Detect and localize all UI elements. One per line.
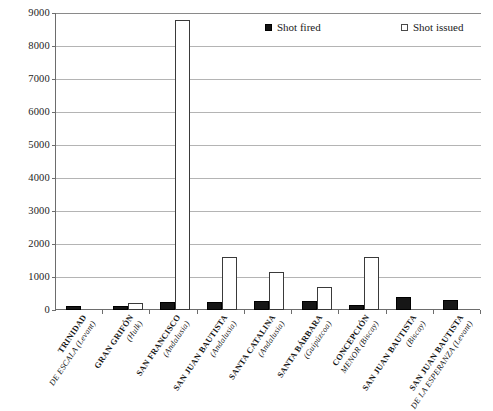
legend: Shot fired Shot issued — [255, 22, 485, 40]
bar-shot-fired — [443, 300, 458, 310]
x-axis-labels: TRINIDADDE ESCALA (Levant)GRAN GRIFÓN(Hu… — [0, 311, 493, 409]
y-axis-tick-label: 1000 — [6, 272, 50, 283]
y-axis-tick-label: 9000 — [6, 8, 50, 19]
y-axis-tick-label: 6000 — [6, 107, 50, 118]
bar-shot-fired — [302, 301, 317, 310]
bar-shot-fired — [254, 301, 269, 310]
legend-entry-shot-issued: Shot issued — [401, 22, 463, 33]
bar-group — [386, 13, 433, 310]
legend-swatch-filled-icon — [265, 24, 272, 31]
y-axis-tick-label: 5000 — [6, 140, 50, 151]
bar-shot-fired — [113, 306, 128, 310]
legend-swatch-hollow-icon — [401, 24, 408, 31]
bar-group — [149, 13, 196, 310]
y-axis-tick-label: 3000 — [6, 206, 50, 217]
legend-label-shot-fired: Shot fired — [277, 22, 321, 33]
legend-label-shot-issued: Shot issued — [413, 22, 463, 33]
y-axis-tick-label: 8000 — [6, 41, 50, 52]
clipped-top-text — [95, 0, 425, 7]
x-axis-category-label-text: TRINIDADDE ESCALA (Levant) — [38, 313, 98, 388]
y-axis-tick-label: 4000 — [6, 173, 50, 184]
bar-shot-fired — [349, 305, 364, 310]
bar-group — [55, 13, 102, 310]
y-axis-tick-label: 7000 — [6, 74, 50, 85]
bar-shot-fired — [160, 302, 175, 310]
y-axis-tick-label: 2000 — [6, 239, 50, 250]
bar-shot-fired — [66, 306, 81, 310]
bar-shot-issued — [175, 20, 190, 310]
legend-entry-shot-fired: Shot fired — [265, 22, 321, 33]
bar-shot-fired — [207, 302, 222, 310]
